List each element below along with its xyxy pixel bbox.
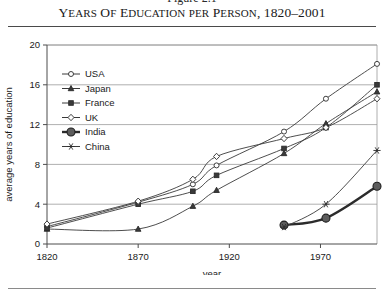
figure-title-text: YEARS OF EDUCATION PER PERSON, 1820–2001	[58, 5, 325, 20]
legend-marker-open-circle	[69, 72, 74, 77]
y-tick-label-16: 16	[29, 79, 40, 90]
legend-item-china[interactable]: China	[62, 141, 111, 152]
legend-marker-open-diamond	[68, 114, 74, 120]
series-line-india	[284, 186, 377, 225]
y-tick-label-0: 0	[35, 238, 40, 249]
y-tick-label-8: 8	[35, 159, 40, 170]
x-tick-label-1820: 1820	[36, 251, 57, 262]
y-axis: 048121620	[29, 39, 47, 249]
legend-item-usa[interactable]: USA	[62, 68, 105, 79]
x-tick-label-1920: 1920	[219, 251, 240, 262]
point-usa-1973	[323, 96, 328, 101]
y-tick-label-12: 12	[29, 119, 40, 130]
point-uk-1900	[190, 176, 196, 182]
point-japan-1913	[214, 187, 220, 192]
figure-root: Figure 2.1 YEARS OF EDUCATION PER PERSON…	[0, 0, 384, 293]
point-uk-1950	[281, 135, 287, 141]
legend-label-usa: USA	[85, 68, 105, 79]
x-axis: 1820187019201970	[36, 244, 377, 262]
point-usa-1913	[214, 163, 219, 168]
point-france-1900	[191, 189, 196, 194]
chart-legend[interactable]: USAJapanFranceUKIndiaChina	[62, 68, 115, 151]
x-tick-label-1970: 1970	[310, 251, 331, 262]
plot-area: 048121620 1820187019201970 USAJapanFranc…	[0, 30, 384, 275]
legend-item-france[interactable]: France	[62, 97, 115, 108]
x-axis-title: year	[203, 268, 221, 275]
point-usa-1950	[282, 129, 287, 134]
point-india-2001	[373, 182, 381, 190]
point-uk-2001	[374, 96, 380, 102]
legend-label-japan: Japan	[85, 83, 111, 94]
footer-divider-rule	[8, 288, 376, 289]
legend-label-india: India	[85, 126, 106, 137]
point-france-2001	[375, 83, 380, 88]
point-france-1913	[214, 173, 219, 178]
point-usa-2001	[375, 61, 380, 66]
point-india-1973	[322, 214, 330, 222]
title-divider-rule	[8, 26, 376, 27]
legend-label-uk: UK	[85, 112, 99, 123]
legend-item-india[interactable]: India	[62, 126, 106, 137]
legend-marker-asterisk	[67, 143, 74, 149]
legend-label-china: China	[85, 141, 111, 152]
legend-label-france: France	[85, 97, 115, 108]
point-japan-2001	[374, 89, 380, 94]
point-france-1950	[282, 146, 287, 151]
x-tick-label-1870: 1870	[128, 251, 149, 262]
point-japan-1950	[281, 150, 287, 155]
chart-svg: 048121620 1820187019201970 USAJapanFranc…	[0, 30, 384, 275]
legend-item-uk[interactable]: UK	[62, 112, 99, 123]
series-china	[280, 147, 380, 230]
series-japan	[44, 89, 380, 232]
legend-marker-bold-circle	[67, 128, 75, 136]
point-uk-1913	[214, 153, 220, 159]
y-axis-title: average years of education	[3, 87, 14, 202]
y-tick-label-20: 20	[29, 39, 40, 50]
legend-marker-filled-square	[69, 101, 74, 106]
figure-title: YEARS OF EDUCATION PER PERSON, 1820–2001	[0, 5, 384, 21]
y-tick-label-4: 4	[35, 199, 40, 210]
